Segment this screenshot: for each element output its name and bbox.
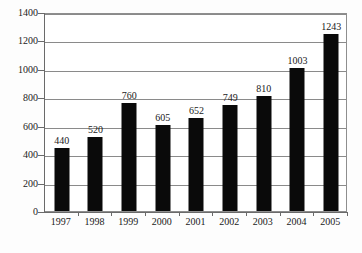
- bar-value-label: 652: [189, 105, 204, 116]
- x-tick-label: 2004: [280, 216, 314, 228]
- y-tick-label: 1400: [2, 8, 38, 18]
- bar-slot: 810: [247, 14, 281, 211]
- x-tick-label: 1999: [111, 216, 145, 228]
- bar-slot: 520: [79, 14, 113, 211]
- x-tick-mark: [280, 212, 281, 216]
- y-tick-label: 200: [2, 179, 38, 189]
- y-tick-label: 1000: [2, 65, 38, 75]
- y-tick-mark: [38, 98, 44, 99]
- x-axis: 199719981999200020012002200320042005: [44, 216, 347, 232]
- plot-area: 44052076060565274981010031243: [44, 13, 347, 212]
- x-tick-mark: [145, 212, 146, 216]
- y-tick-mark: [38, 212, 44, 213]
- y-axis-line: [44, 13, 45, 213]
- x-tick-label: 2002: [212, 216, 246, 228]
- y-tick-label: 600: [2, 122, 38, 132]
- x-tick-mark: [212, 212, 213, 216]
- bar[interactable]: [88, 137, 103, 211]
- y-axis: 0200400600800100012001400: [0, 0, 38, 253]
- bar-value-label: 520: [88, 124, 103, 135]
- y-tick-label: 1200: [2, 36, 38, 46]
- bar[interactable]: [189, 118, 204, 211]
- x-tick-mark: [313, 212, 314, 216]
- x-tick-mark: [179, 212, 180, 216]
- bar[interactable]: [290, 68, 305, 211]
- bar-value-label: 440: [54, 135, 69, 146]
- y-tick-mark: [38, 127, 44, 128]
- bar-slot: 605: [146, 14, 180, 211]
- bar-value-label: 1243: [321, 21, 341, 32]
- x-tick-label: 1998: [78, 216, 112, 228]
- bar-slot: 1243: [314, 14, 348, 211]
- y-tick-mark: [38, 41, 44, 42]
- x-tick-label: 2003: [246, 216, 280, 228]
- bar-value-label: 605: [155, 112, 170, 123]
- y-tick-label: 800: [2, 93, 38, 103]
- y-tick-mark: [38, 13, 44, 14]
- bar[interactable]: [324, 34, 339, 211]
- x-tick-mark: [111, 212, 112, 216]
- bar-slot: 440: [45, 14, 79, 211]
- bar-value-label: 760: [122, 90, 137, 101]
- x-tick-mark: [78, 212, 79, 216]
- bar[interactable]: [256, 96, 271, 211]
- bar[interactable]: [155, 125, 170, 211]
- x-axis-line: [44, 212, 348, 213]
- x-tick-mark: [347, 212, 348, 216]
- bar-slot: 652: [180, 14, 214, 211]
- y-tick-mark: [38, 155, 44, 156]
- x-tick-label: 2001: [179, 216, 213, 228]
- y-tick-mark: [38, 184, 44, 185]
- bar-value-label: 1003: [287, 55, 307, 66]
- bar[interactable]: [223, 105, 238, 211]
- y-tick-label: 400: [2, 150, 38, 160]
- bar-value-label: 810: [256, 83, 271, 94]
- bar-value-label: 749: [223, 92, 238, 103]
- y-tick-mark: [38, 70, 44, 71]
- x-tick-label: 2005: [313, 216, 347, 228]
- bar[interactable]: [54, 148, 69, 211]
- bar-slot: 1003: [281, 14, 315, 211]
- bar-slot: 760: [112, 14, 146, 211]
- bar[interactable]: [122, 103, 137, 211]
- x-tick-label: 1997: [44, 216, 78, 228]
- x-tick-mark: [246, 212, 247, 216]
- x-tick-label: 2000: [145, 216, 179, 228]
- y-tick-label: 0: [2, 207, 38, 217]
- bar-chart-figure: 0200400600800100012001400 44052076060565…: [0, 0, 362, 253]
- bar-slot: 749: [213, 14, 247, 211]
